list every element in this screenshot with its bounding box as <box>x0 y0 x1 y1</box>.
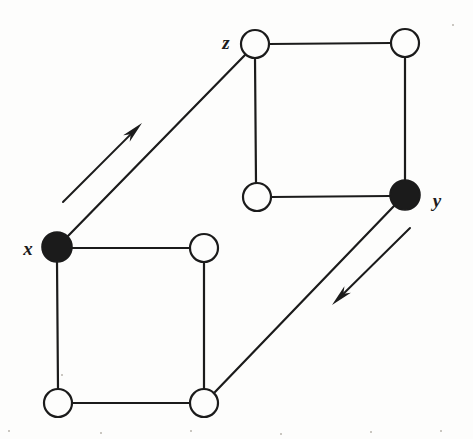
graph-canvas <box>0 0 473 439</box>
paper-speck-4 <box>190 430 192 432</box>
edges-layer <box>57 43 405 403</box>
arrow-shaft <box>63 134 131 202</box>
arrows-layer <box>63 123 410 305</box>
graph-edge-y-e <box>215 206 394 392</box>
paper-speck-3 <box>100 432 102 434</box>
paper-speck-7 <box>440 430 442 432</box>
paper-speck-2 <box>8 430 10 432</box>
arrow-y-downward <box>332 228 410 305</box>
graph-vertex-d-open <box>44 389 72 417</box>
graph-edge-y-b <box>271 196 390 197</box>
vertices-layer <box>42 29 420 417</box>
vertex-label-y: y <box>433 191 441 210</box>
graph-figure: zyx <box>0 0 473 439</box>
paper-speck-5 <box>280 433 282 435</box>
graph-vertex-z-open <box>241 30 269 58</box>
graph-edge-z-a <box>269 43 391 44</box>
graph-edge-b-z <box>255 58 256 183</box>
graph-vertex-e-open <box>190 389 218 417</box>
arrow-x-to-z <box>63 123 142 202</box>
graph-vertex-c-open <box>190 234 218 262</box>
graph-edge-d-x <box>57 262 58 389</box>
graph-edge-x-z <box>68 55 245 236</box>
graph-vertex-x-filled <box>42 232 72 262</box>
arrow-shaft <box>343 228 410 294</box>
graph-vertex-y-filled <box>390 180 420 210</box>
graph-vertex-a-open <box>391 29 419 57</box>
paper-speck-0 <box>61 374 63 376</box>
graph-vertex-b-open <box>243 183 271 211</box>
paper-speck-1 <box>452 24 454 26</box>
vertex-label-z: z <box>222 33 229 52</box>
paper-speck-6 <box>370 431 372 433</box>
vertex-label-x: x <box>23 239 33 258</box>
